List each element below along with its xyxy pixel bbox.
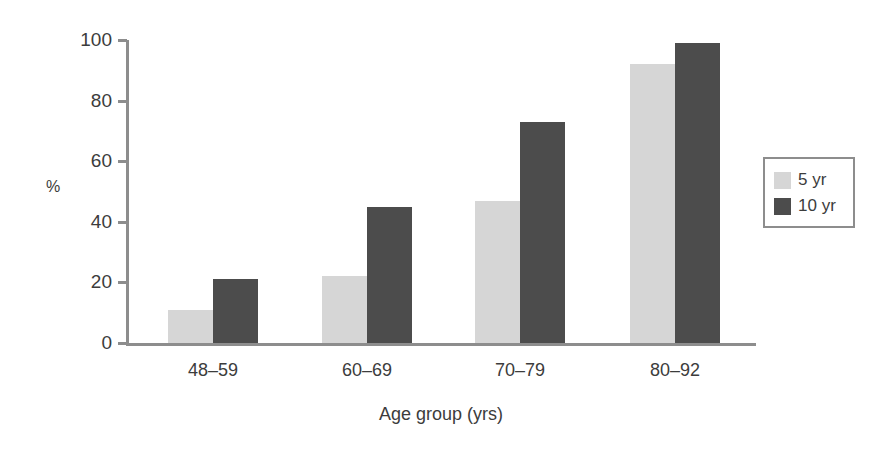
x-axis-line bbox=[126, 343, 756, 346]
y-axis-tick bbox=[118, 342, 127, 345]
y-axis-title: % bbox=[46, 178, 60, 196]
y-axis-tick-label: 60 bbox=[52, 150, 112, 172]
x-axis-tick-label: 60–69 bbox=[307, 360, 427, 381]
y-axis-tick-label: 80 bbox=[52, 90, 112, 112]
x-axis-tick-label: 70–79 bbox=[460, 360, 580, 381]
legend-swatch-icon-5yr bbox=[774, 172, 791, 189]
legend: 5 yr 10 yr bbox=[763, 157, 855, 228]
y-axis-tick-label: 40 bbox=[52, 211, 112, 233]
bar-10yr-80–92 bbox=[675, 43, 720, 343]
bar-group bbox=[322, 40, 412, 343]
legend-label-5yr: 5 yr bbox=[798, 170, 826, 190]
x-axis-tick-label: 48–59 bbox=[153, 360, 273, 381]
bar-10yr-60–69 bbox=[367, 207, 412, 343]
x-axis-title: Age group (yrs) bbox=[126, 404, 756, 425]
bar-5yr-70–79 bbox=[475, 201, 520, 343]
legend-swatch-icon-10yr bbox=[774, 198, 791, 215]
y-axis-tick-label: 20 bbox=[52, 271, 112, 293]
y-axis-tick bbox=[118, 221, 127, 224]
bar-group bbox=[630, 40, 720, 343]
legend-item-10yr: 10 yr bbox=[774, 193, 853, 219]
bar-10yr-48–59 bbox=[213, 279, 258, 343]
bar-5yr-60–69 bbox=[322, 276, 367, 343]
plot-area bbox=[129, 40, 756, 343]
bar-5yr-48–59 bbox=[168, 310, 213, 343]
bar-chart: % 020406080100 48–5960–6970–7980–92 Age … bbox=[0, 0, 882, 453]
bar-10yr-70–79 bbox=[520, 122, 565, 343]
y-axis-tick-label: 100 bbox=[52, 29, 112, 51]
bar-group bbox=[168, 40, 258, 343]
legend-item-5yr: 5 yr bbox=[774, 167, 853, 193]
y-axis-tick bbox=[118, 281, 127, 284]
legend-label-10yr: 10 yr bbox=[798, 196, 836, 216]
y-axis-tick-label: 0 bbox=[52, 332, 112, 354]
y-axis-tick bbox=[118, 39, 127, 42]
bar-group bbox=[475, 40, 565, 343]
y-axis-tick bbox=[118, 100, 127, 103]
y-axis-tick bbox=[118, 160, 127, 163]
x-axis-tick-label: 80–92 bbox=[615, 360, 735, 381]
bar-5yr-80–92 bbox=[630, 64, 675, 343]
